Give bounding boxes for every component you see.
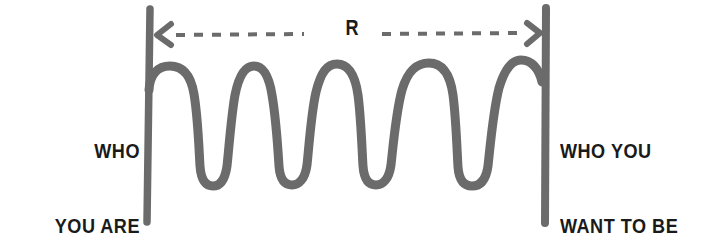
wavy-line-icon: [149, 60, 542, 186]
label-who-you-want-to-be-line2: WANT TO BE: [560, 213, 699, 234]
label-who-you-are-line1: WHO: [35, 138, 140, 163]
label-who-you-are: WHO YOU ARE: [35, 88, 140, 234]
measure-dashes-left: [176, 34, 304, 35]
measure-label-r: R: [339, 16, 365, 40]
label-who-you-are-line2: YOU ARE: [35, 213, 140, 234]
label-who-you-want-to-be-line1: WHO YOU: [560, 138, 699, 163]
left-boundary-line: [147, 9, 150, 222]
measure-dashes-right: [382, 33, 522, 34]
label-who-you-want-to-be: WHO YOU WANT TO BE: [560, 88, 699, 234]
diagram-canvas: R WHO YOU ARE WHO YOU WANT TO BE: [0, 0, 722, 234]
arrow-right-icon: [527, 23, 540, 44]
arrow-left-icon: [157, 24, 171, 45]
right-boundary-line: [545, 8, 546, 223]
